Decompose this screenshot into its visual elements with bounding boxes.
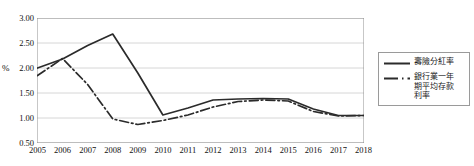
y-axis-title: % bbox=[2, 64, 10, 73]
plot-frame bbox=[37, 18, 364, 143]
x-tick-label: 2008 bbox=[104, 146, 121, 155]
x-tick-label: 2005 bbox=[29, 146, 46, 155]
legend-label-series-2: 銀行業一年 期平均存款 利率 bbox=[414, 72, 454, 101]
y-tick-label: 1.50 bbox=[0, 89, 34, 98]
chart-legend: 壽險分紅率 銀行業一年 期平均存款 利率 bbox=[378, 52, 470, 106]
chart-container: 3.002.502.001.501.000.50 % 2005200620072… bbox=[0, 0, 474, 166]
x-tick-label: 2016 bbox=[305, 146, 322, 155]
chart-plot-svg bbox=[37, 18, 364, 143]
x-tick-label: 2014 bbox=[255, 146, 272, 155]
x-axis-tick-labels: 2005200620072008200920102011201220132014… bbox=[0, 146, 474, 160]
series-lines bbox=[38, 34, 364, 125]
legend-item-series-1: 壽險分紅率 bbox=[383, 57, 466, 69]
plot-area bbox=[37, 18, 364, 143]
legend-line-dashdot-icon bbox=[383, 73, 411, 84]
x-tick-label: 2012 bbox=[205, 146, 222, 155]
x-tick-label: 2006 bbox=[54, 146, 71, 155]
x-tick-label: 2007 bbox=[79, 146, 96, 155]
x-tick-label: 2017 bbox=[330, 146, 347, 155]
y-tick-label: 2.50 bbox=[0, 39, 34, 48]
series-line-1 bbox=[38, 34, 364, 116]
legend-label-series-1: 壽險分紅率 bbox=[414, 57, 454, 67]
y-tick-label: 1.00 bbox=[0, 114, 34, 123]
y-axis-tick-labels: 3.002.502.001.501.000.50 bbox=[0, 0, 34, 166]
x-tick-label: 2018 bbox=[355, 146, 372, 155]
y-tick-label: 3.00 bbox=[0, 14, 34, 23]
legend-item-series-2: 銀行業一年 期平均存款 利率 bbox=[383, 72, 466, 101]
legend-line-solid-icon bbox=[383, 58, 411, 69]
x-tick-label: 2010 bbox=[154, 146, 171, 155]
gridlines bbox=[37, 18, 364, 143]
x-tick-label: 2013 bbox=[230, 146, 247, 155]
x-tick-label: 2009 bbox=[129, 146, 146, 155]
x-tick-label: 2015 bbox=[280, 146, 297, 155]
x-tick-label: 2011 bbox=[180, 146, 197, 155]
